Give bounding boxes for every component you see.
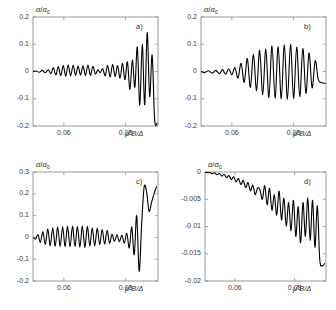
y-tick-label: -0.005 bbox=[168, 195, 201, 202]
y-axis-label: α/α0 bbox=[36, 160, 50, 169]
plot-panel-c: -0.2-0.100.10.20.30.060.08α/α0μ*B/Δc) bbox=[0, 155, 168, 310]
panel-label: d) bbox=[304, 177, 311, 186]
data-curve bbox=[201, 44, 325, 99]
panel-label: c) bbox=[136, 177, 142, 186]
y-tick-label: 0.2 bbox=[0, 13, 29, 20]
plot-panel-a: -0.2-0.100.10.20.060.08α/α0μ*B/Δa) bbox=[0, 0, 168, 155]
y-tick-label: -0.2 bbox=[0, 277, 29, 284]
y-tick-label: -0.1 bbox=[168, 94, 197, 101]
y-axis-label: α/α0 bbox=[36, 5, 50, 14]
x-tick-label: 0.06 bbox=[50, 284, 78, 291]
y-tick-label: -0.2 bbox=[0, 122, 29, 129]
y-tick-label: 0 bbox=[0, 233, 29, 240]
y-tick-label: 0 bbox=[168, 67, 197, 74]
y-tick-label: 0 bbox=[168, 168, 201, 175]
x-axis-label: μ*B/Δ bbox=[293, 129, 311, 138]
y-tick-label: -0.015 bbox=[168, 249, 201, 256]
y-axis-label: α/α0 bbox=[208, 160, 222, 169]
y-tick-label: 0.1 bbox=[0, 211, 29, 218]
x-tick-label: 0.06 bbox=[221, 284, 249, 291]
y-tick-label: 0.2 bbox=[168, 13, 197, 20]
y-tick-label: -0.1 bbox=[0, 94, 29, 101]
x-axis-label: μ*B/Δ bbox=[125, 129, 143, 138]
x-axis-label: μ*B/Δ bbox=[293, 284, 311, 293]
data-curve bbox=[33, 33, 157, 126]
panel-label: b) bbox=[304, 22, 311, 31]
y-tick-label: 0.1 bbox=[168, 40, 197, 47]
x-tick-label: 0.06 bbox=[218, 129, 246, 136]
y-tick-label: -0.1 bbox=[0, 255, 29, 262]
y-axis-label: α/α0 bbox=[204, 5, 218, 14]
plot-panel-b: -0.2-0.100.10.20.060.08α/α0μ*B/Δb) bbox=[168, 0, 336, 155]
x-axis-label: μ*B/Δ bbox=[125, 284, 143, 293]
y-tick-label: -0.2 bbox=[168, 122, 197, 129]
y-tick-label: -0.02 bbox=[168, 277, 201, 284]
x-tick-label: 0.06 bbox=[50, 129, 78, 136]
y-tick-label: -0.01 bbox=[168, 222, 201, 229]
y-tick-label: 0.1 bbox=[0, 40, 29, 47]
axes-frame bbox=[33, 172, 158, 281]
figure-container: -0.2-0.100.10.20.060.08α/α0μ*B/Δa) -0.2-… bbox=[0, 0, 336, 310]
y-tick-label: 0.3 bbox=[0, 168, 29, 175]
panel-label: a) bbox=[136, 22, 143, 31]
data-curve bbox=[205, 172, 325, 266]
y-tick-label: 0.2 bbox=[0, 189, 29, 196]
plot-panel-d: -0.02-0.015-0.01-0.00500.060.08α/α0μ*B/Δ… bbox=[168, 155, 336, 310]
data-curve bbox=[33, 185, 156, 271]
y-tick-label: 0 bbox=[0, 67, 29, 74]
